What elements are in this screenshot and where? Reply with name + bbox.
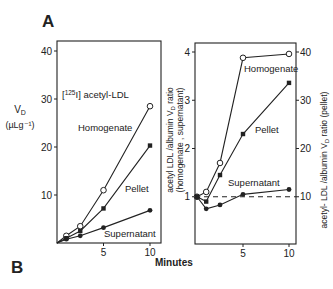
left-y-tick-label: 3 bbox=[184, 95, 190, 106]
homogenate-open-circle-marker bbox=[77, 223, 83, 229]
x-tick-label: 5 bbox=[101, 247, 107, 258]
chart-vd-ratio-vs-time: 123410203040510acetyl LDL /albumin VD ra… bbox=[165, 43, 330, 259]
pellet-square-marker bbox=[148, 143, 152, 147]
chart-vd-vs-time: 10203040510VD(µLg⁻¹)[125I] acetyl-LDLHom… bbox=[5, 41, 161, 258]
supernatant-filled-circle-marker bbox=[241, 192, 246, 197]
y-tick-label: 30 bbox=[41, 94, 53, 105]
supernatant-filled-circle-marker bbox=[195, 194, 200, 199]
right-y-axis-label: acetyl- LDL /albumin VD ratio (pellet) bbox=[319, 91, 330, 228]
homogenate-open-circle-marker bbox=[286, 51, 292, 57]
panel-label-a: A bbox=[42, 12, 54, 32]
series-label-homogenate: Homogenate bbox=[78, 122, 132, 133]
homogenate-open-circle-marker bbox=[217, 160, 223, 166]
x-axis-label: Minutes bbox=[155, 257, 193, 268]
right-y-tick-label: 20 bbox=[300, 143, 312, 154]
pellet-square-marker bbox=[101, 206, 105, 210]
chart-title: [125I] acetyl-LDL bbox=[62, 89, 129, 100]
supernatant-filled-circle-marker bbox=[78, 233, 83, 238]
pellet-square-marker bbox=[204, 199, 208, 203]
series-label-pellet: Pellet bbox=[125, 183, 149, 194]
left-y-axis-label-line2: (homogenate , supernatant) bbox=[175, 87, 185, 192]
y-tick-label: 20 bbox=[41, 142, 53, 153]
homogenate-open-circle-marker bbox=[203, 189, 209, 195]
series-label-supernatant: Supernatant bbox=[228, 177, 280, 188]
y-tick-label: 10 bbox=[41, 190, 53, 201]
homogenate-open-circle-marker bbox=[101, 187, 107, 193]
right-y-tick-label: 10 bbox=[300, 191, 312, 202]
y-axis-label: VD bbox=[14, 104, 26, 116]
left-y-tick-label: 2 bbox=[184, 143, 190, 154]
homogenate-open-circle-marker bbox=[240, 55, 246, 61]
supernatant-filled-circle-marker bbox=[148, 208, 153, 213]
left-y-tick-label: 4 bbox=[184, 47, 190, 58]
series-label-pellet: Pellet bbox=[255, 124, 279, 135]
left-y-tick-label: 1 bbox=[184, 191, 190, 202]
right-y-tick-label: 40 bbox=[300, 47, 312, 58]
supernatant-filled-circle-marker bbox=[64, 237, 69, 242]
supernatant-filled-circle-marker bbox=[287, 187, 292, 192]
pellet-square-marker bbox=[287, 81, 291, 85]
series-label-homogenate: Homogenate bbox=[244, 63, 298, 74]
y-tick-label: 40 bbox=[41, 46, 53, 57]
supernatant-filled-circle-marker bbox=[218, 203, 223, 208]
y-axis-units: (µLg⁻¹) bbox=[5, 120, 34, 130]
plot-frame bbox=[57, 41, 161, 243]
supernatant-filled-circle-marker bbox=[204, 206, 209, 211]
panel-label-b: B bbox=[11, 258, 23, 278]
series-label-supernatant: Supernatant bbox=[104, 228, 156, 239]
x-tick-label: 5 bbox=[240, 248, 246, 259]
right-y-tick-label: 30 bbox=[300, 95, 312, 106]
homogenate-open-circle-marker bbox=[147, 103, 153, 109]
pellet-square-marker bbox=[78, 229, 82, 233]
figure: 10203040510VD(µLg⁻¹)[125I] acetyl-LDLHom… bbox=[0, 0, 333, 289]
pellet-square-marker bbox=[218, 173, 222, 177]
pellet-square-marker bbox=[241, 132, 245, 136]
x-tick-label: 10 bbox=[283, 248, 295, 259]
